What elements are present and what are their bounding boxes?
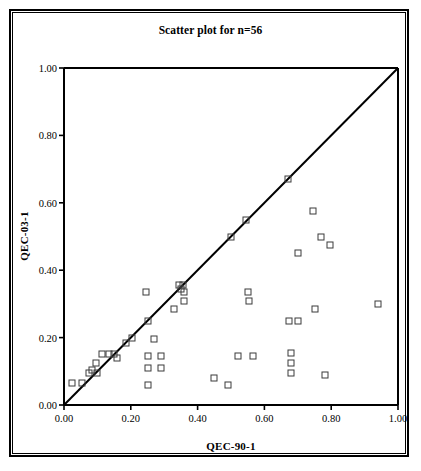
- data-point-marker: [144, 317, 151, 324]
- y-tick-label: 0.20: [39, 332, 57, 343]
- data-point-marker: [144, 353, 151, 360]
- data-point-marker: [181, 289, 188, 296]
- data-point-marker: [234, 353, 241, 360]
- x-tick-label: 0.00: [55, 413, 73, 424]
- data-point-marker: [228, 233, 235, 240]
- y-tick-label: 1.00: [39, 63, 57, 74]
- data-point-marker: [286, 317, 293, 324]
- data-point-marker: [244, 289, 251, 296]
- y-tick-label: 0.60: [39, 197, 57, 208]
- data-point-marker: [144, 381, 151, 388]
- data-point-marker: [171, 305, 178, 312]
- x-axis-label: QEC-90-1: [64, 440, 398, 452]
- data-point-marker: [129, 334, 136, 341]
- data-point-marker: [94, 369, 101, 376]
- data-point-marker: [211, 375, 218, 382]
- data-point-marker: [157, 353, 164, 360]
- data-point-marker: [311, 305, 318, 312]
- data-point-marker: [309, 208, 316, 215]
- y-tick-label: 0.00: [39, 400, 57, 411]
- data-point-marker: [284, 176, 291, 183]
- x-tick-label: 1.00: [389, 413, 407, 424]
- x-tick-label: 0.40: [188, 413, 206, 424]
- data-point-marker: [246, 297, 253, 304]
- data-point-marker: [288, 369, 295, 376]
- data-point-marker: [144, 364, 151, 371]
- data-point-marker: [294, 250, 301, 257]
- data-point-marker: [374, 300, 381, 307]
- y-tick-label: 0.40: [39, 265, 57, 276]
- data-point-marker: [69, 380, 76, 387]
- data-point-marker: [326, 241, 333, 248]
- data-point-marker: [288, 349, 295, 356]
- x-tick-label: 0.20: [122, 413, 140, 424]
- data-point-marker: [142, 289, 149, 296]
- data-point-marker: [249, 353, 256, 360]
- data-point-marker: [318, 233, 325, 240]
- data-point-marker: [114, 354, 121, 361]
- data-point-marker: [79, 380, 86, 387]
- data-point-marker: [151, 336, 158, 343]
- chart-title: Scatter plot for n=56: [0, 24, 421, 36]
- data-point-marker: [92, 359, 99, 366]
- x-tick-label: 0.80: [322, 413, 340, 424]
- scatter-plot-figure: Scatter plot for n=56 0.000.200.400.600.…: [0, 0, 421, 471]
- data-point-marker: [321, 371, 328, 378]
- plot-area: 0.000.200.400.600.801.00 0.000.200.400.6…: [64, 68, 398, 405]
- data-point-marker: [157, 364, 164, 371]
- y-tick-label: 0.80: [39, 130, 57, 141]
- y-axis-label: QEC-03-1: [18, 176, 30, 296]
- data-point-marker: [294, 317, 301, 324]
- data-point-marker: [224, 381, 231, 388]
- data-point-marker: [243, 216, 250, 223]
- data-point-marker: [181, 297, 188, 304]
- data-point-marker: [288, 359, 295, 366]
- x-tick-label: 0.60: [255, 413, 273, 424]
